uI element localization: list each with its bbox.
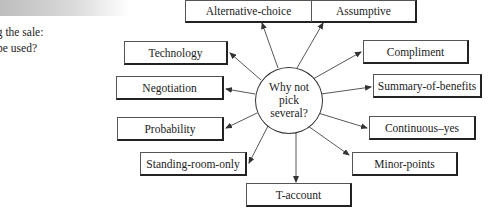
box-label: Technology: [148, 47, 202, 59]
box-compliment: Compliment: [363, 40, 469, 64]
arrow-continuous-yes: [318, 113, 367, 128]
box-label: Assumptive: [336, 5, 391, 17]
arrow-assumptive: [297, 23, 323, 68]
box-alternative-choice: Alternative-choice: [185, 0, 313, 23]
box-minor-points: Minor-points: [352, 152, 458, 176]
box-t-account: T-account: [246, 183, 352, 207]
arrow-minor-points: [308, 126, 349, 155]
arrow-alternative-choice: [262, 23, 278, 68]
box-label: Summary-of-benefits: [378, 80, 476, 92]
arrow-standing-room-only: [249, 126, 268, 163]
connector-arrows: [0, 0, 490, 208]
box-label: T-account: [276, 189, 322, 201]
arrow-probability: [226, 113, 257, 128]
arrow-compliment: [313, 52, 361, 79]
hub-line-2: pick: [279, 94, 299, 107]
box-summary-of-benefits: Summary-of-benefits: [373, 74, 482, 98]
box-label: Continuous–yes: [385, 122, 459, 134]
box-standing-room-only: Standing-room-only: [140, 152, 247, 176]
hub-line-1: Why not: [269, 81, 309, 94]
arrow-summary: [321, 87, 371, 94]
box-probability: Probability: [117, 117, 224, 141]
box-label: Compliment: [387, 46, 445, 58]
box-assumptive: Assumptive: [311, 0, 417, 23]
box-label: Alternative-choice: [206, 5, 292, 17]
box-continuous-yes: Continuous–yes: [369, 116, 476, 140]
box-label: Minor-points: [374, 158, 434, 170]
arrow-technology: [230, 53, 261, 80]
hub-circle: Why not pick several?: [255, 67, 323, 134]
box-technology: Technology: [124, 41, 228, 65]
box-label: Negotiation: [142, 82, 196, 94]
box-label: Standing-room-only: [146, 158, 239, 170]
arrow-negotiation: [226, 89, 255, 94]
hub-line-3: several?: [270, 107, 308, 120]
box-label: Probability: [144, 123, 195, 135]
box-negotiation: Negotiation: [116, 76, 224, 100]
